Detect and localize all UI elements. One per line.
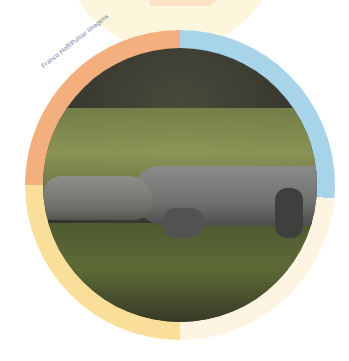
caiman-front-leg — [163, 208, 203, 238]
caiman-leg — [275, 188, 303, 238]
caiman-photo — [43, 48, 317, 322]
caiman-head — [43, 176, 153, 220]
